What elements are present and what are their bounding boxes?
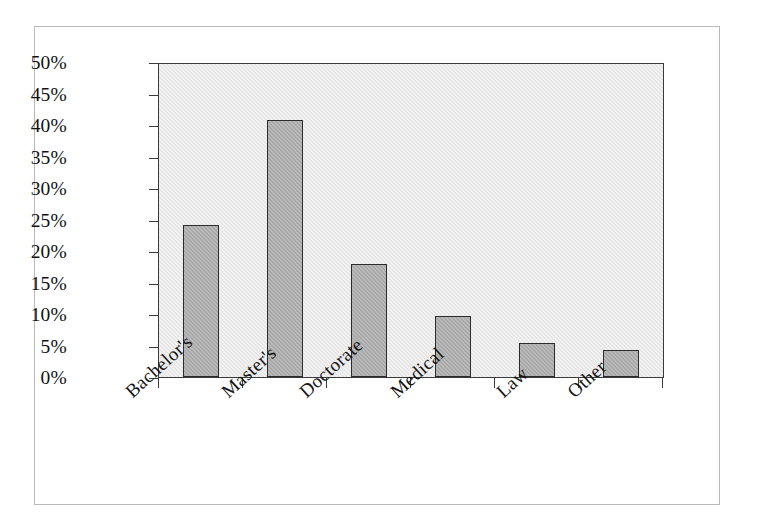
y-tick-label: 30% <box>0 178 67 200</box>
y-tick-label: 15% <box>0 273 67 295</box>
y-tick-label: 35% <box>0 147 67 169</box>
y-tick-label: 20% <box>0 241 67 263</box>
y-tick-label: 10% <box>0 304 67 326</box>
y-tick-label: 0% <box>0 367 67 389</box>
y-tick-mark <box>149 95 158 96</box>
y-tick-mark <box>149 284 158 285</box>
plot-area <box>158 63 664 378</box>
y-tick-mark <box>149 126 158 127</box>
y-tick-label: 40% <box>0 115 67 137</box>
bar-medical <box>435 316 471 377</box>
chart-figure: 0% 5% 10% 15% 20% 25% 30% 35% 40% 45% 50… <box>0 0 757 523</box>
y-tick-mark <box>149 347 158 348</box>
y-tick-mark <box>149 221 158 222</box>
y-tick-mark <box>149 252 158 253</box>
y-axis: 0% 5% 10% 15% 20% 25% 30% 35% 40% 45% 50… <box>0 0 158 523</box>
y-tick-label: 50% <box>0 52 67 74</box>
x-tick-mark <box>662 378 663 388</box>
y-tick-mark <box>149 315 158 316</box>
y-tick-label: 45% <box>0 84 67 106</box>
y-tick-label: 5% <box>0 336 67 358</box>
y-tick-mark <box>149 63 158 64</box>
y-tick-mark <box>149 189 158 190</box>
bar-masters <box>267 120 303 377</box>
y-tick-label: 25% <box>0 210 67 232</box>
y-tick-mark <box>149 158 158 159</box>
